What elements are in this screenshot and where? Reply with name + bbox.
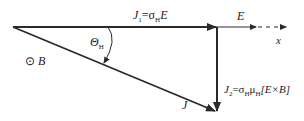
b-field-label: ⊙ B (25, 55, 45, 67)
hall-vector-diagram: J1=σHE E x ΘH ⊙ B J J2=σHμH[E×B] (0, 0, 304, 121)
j1-label: J1=σHE (133, 9, 167, 24)
b-field-out-icon: ⊙ (25, 54, 35, 68)
theta-label: ΘH (90, 36, 104, 51)
e-label: E (237, 10, 244, 22)
x-label: x (276, 35, 281, 46)
j-label: J (182, 99, 187, 111)
j2-label: J2=σHμH[E×B] (224, 84, 290, 98)
theta-arc (104, 27, 112, 63)
